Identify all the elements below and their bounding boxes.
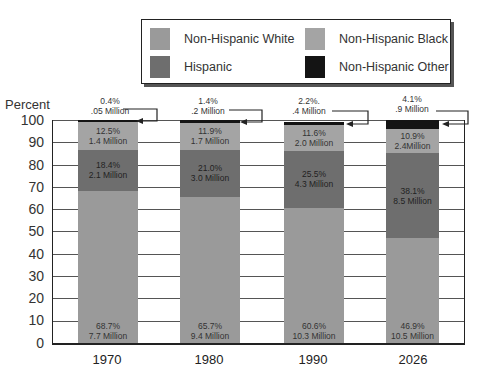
x-tick-label: 1980 (179, 352, 239, 367)
x-tick-label: 2026 (383, 352, 443, 367)
callout-arrows (0, 0, 488, 381)
x-tick-label: 1990 (283, 352, 343, 367)
x-tick-label: 1970 (77, 352, 137, 367)
